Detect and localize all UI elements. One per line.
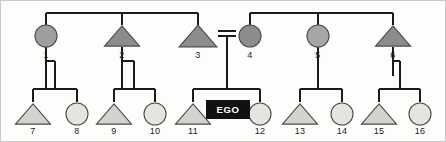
person-id-label-4: 4	[247, 50, 252, 60]
pedigree-diagram: EGO 12345678910111213141516	[0, 0, 446, 142]
person-node-6[interactable]	[375, 26, 410, 46]
person-node-10[interactable]	[144, 103, 166, 125]
person-node-3[interactable]	[179, 25, 217, 47]
person-node-16[interactable]	[409, 103, 431, 125]
person-id-label-9: 9	[111, 126, 116, 136]
person-id-label-8: 8	[74, 126, 79, 136]
person-node-1[interactable]	[35, 25, 57, 47]
person-id-label-6: 6	[390, 50, 395, 60]
person-node-15[interactable]	[361, 104, 396, 124]
person-id-label-3: 3	[195, 50, 200, 60]
person-id-label-1: 1	[43, 50, 48, 60]
person-node-12[interactable]	[249, 103, 271, 125]
person-node-9[interactable]	[96, 104, 131, 124]
person-node-4[interactable]	[239, 25, 261, 47]
person-node-7[interactable]	[15, 104, 50, 124]
connector-lines	[33, 13, 420, 102]
person-id-label-14: 14	[337, 126, 348, 136]
ego-marker[interactable]: EGO	[206, 100, 250, 119]
person-id-label-11: 11	[188, 126, 198, 136]
person-id-label-10: 10	[150, 126, 161, 136]
person-node-2[interactable]	[104, 26, 139, 46]
person-id-label-2: 2	[119, 50, 124, 60]
person-id-label-7: 7	[30, 126, 35, 136]
person-node-13[interactable]	[282, 104, 317, 124]
person-node-14[interactable]	[331, 103, 353, 125]
person-id-label-15: 15	[374, 126, 385, 136]
person-node-8[interactable]	[66, 103, 88, 125]
person-id-label-12: 12	[255, 126, 266, 136]
pedigree-canvas: EGO 12345678910111213141516	[1, 1, 445, 141]
person-id-label-16: 16	[415, 126, 426, 136]
ego-label: EGO	[217, 104, 240, 115]
person-node-11[interactable]	[175, 104, 210, 124]
person-node-5[interactable]	[307, 25, 329, 47]
person-id-label-5: 5	[315, 50, 320, 60]
person-id-label-13: 13	[295, 126, 306, 136]
